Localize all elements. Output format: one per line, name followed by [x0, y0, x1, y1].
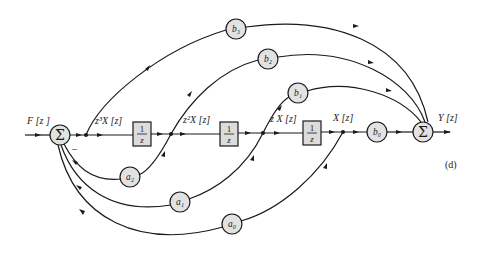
- label-z2x: z²X [z]: [182, 114, 210, 125]
- junction-z3x: [84, 133, 88, 137]
- svg-text:z: z: [139, 135, 144, 145]
- path-a0-to-sum: [58, 145, 223, 235]
- gain-b0: b₀: [367, 122, 387, 142]
- output-summer: Σ: [413, 122, 433, 142]
- svg-text:b₃: b₃: [232, 24, 240, 34]
- svg-text:b₁: b₁: [294, 88, 302, 98]
- arrow-icon: [323, 163, 327, 169]
- arrow-icon: [35, 133, 41, 137]
- svg-text:1: 1: [227, 124, 232, 134]
- svg-text:Σ: Σ: [418, 124, 428, 140]
- arrow-icon: [444, 130, 451, 134]
- junction-x: [341, 130, 345, 134]
- arrow-icon: [245, 131, 251, 135]
- arrow-icon: [353, 24, 359, 28]
- svg-text:b₂: b₂: [264, 54, 273, 64]
- junction-z2x: [169, 132, 173, 136]
- input-summer: Σ: [50, 125, 70, 145]
- arrow-icon: [180, 132, 186, 136]
- label-zx: z X [z]: [269, 113, 297, 124]
- arrow-icon: [329, 130, 335, 134]
- path-a1-to-sum: [61, 145, 171, 207]
- gain-b2: b₂: [258, 49, 278, 69]
- label-z3x: z³X [z]: [94, 115, 122, 126]
- arrow-icon: [353, 130, 359, 134]
- input-label: F [z ]: [26, 115, 50, 126]
- minus-sign: –: [71, 143, 78, 154]
- path-b1-to-sum: [307, 87, 421, 122]
- arrow-icon: [187, 91, 192, 97]
- gain-b3: b₃: [226, 19, 246, 39]
- signal-flow-diagram: Σ – Σ 1 z 1 z 1 z b₃ b₂ b₁ b₀: [0, 0, 481, 257]
- svg-text:1: 1: [310, 123, 315, 133]
- svg-text:b₀: b₀: [373, 127, 381, 137]
- output-label: Y [z]: [438, 112, 458, 123]
- arrow-icon: [76, 133, 82, 137]
- svg-text:a₁: a₁: [176, 197, 184, 207]
- svg-text:a₀: a₀: [228, 219, 236, 229]
- gain-a1: a₁: [170, 192, 190, 212]
- delay-block-3: 1 z: [303, 121, 321, 145]
- path-b3-to-sum: [246, 24, 428, 122]
- arrow-icon: [250, 155, 254, 161]
- svg-text:Σ: Σ: [55, 127, 65, 143]
- gain-a0: a₀: [222, 214, 242, 234]
- arrow-icon: [274, 131, 280, 135]
- delay-block-1: 1 z: [133, 122, 151, 146]
- delay-block-2: 1 z: [220, 122, 238, 146]
- junction-zx: [261, 131, 265, 135]
- arrow-icon: [161, 151, 165, 157]
- arrow-icon: [157, 132, 163, 136]
- svg-text:a₂: a₂: [126, 172, 135, 182]
- arrow-icon: [97, 133, 103, 137]
- svg-text:z: z: [226, 135, 231, 145]
- arrow-icon: [386, 88, 392, 92]
- arrow-icon: [368, 60, 374, 64]
- gain-a2: a₂: [120, 167, 140, 187]
- svg-text:1: 1: [140, 124, 145, 134]
- svg-text:z: z: [309, 134, 314, 144]
- gain-b1: b₁: [288, 83, 308, 103]
- panel-label: (d): [445, 159, 457, 171]
- label-x: X [z]: [332, 112, 353, 123]
- arrow-icon: [396, 130, 402, 134]
- arrow-icon: [79, 209, 85, 215]
